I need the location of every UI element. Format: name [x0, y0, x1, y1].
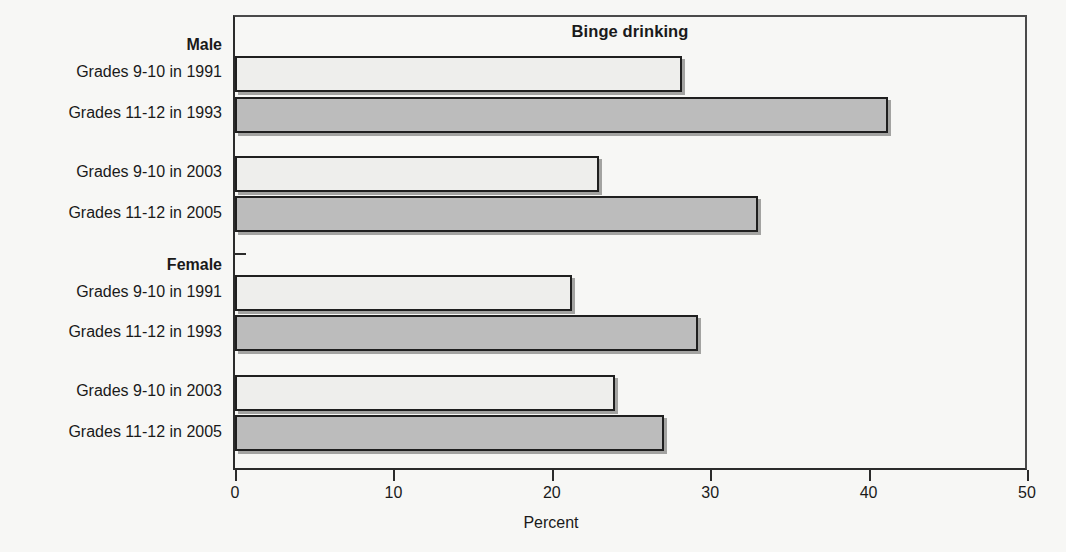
category-label-female-grades-9-10-1991: Grades 9-10 in 1991: [76, 283, 222, 301]
x-tick-label-50: 50: [997, 484, 1057, 502]
x-tick-label-20: 20: [522, 484, 582, 502]
x-axis-title: Percent: [0, 514, 1066, 532]
x-tick-label-0: 0: [205, 484, 265, 502]
x-tick-label-10: 10: [363, 484, 423, 502]
bar-female-grades-11-12-2005: [235, 415, 664, 451]
x-tick-0: [235, 470, 237, 481]
category-label-female-grades-11-12-1993: Grades 11-12 in 1993: [68, 323, 222, 341]
bar-male-grades-11-12-1993: [235, 97, 888, 133]
x-tick-10: [393, 470, 395, 481]
bar-female-grades-11-12-1993: [235, 315, 698, 351]
x-tick-30: [710, 470, 712, 481]
category-label-male-grades-9-10-2003: Grades 9-10 in 2003: [76, 163, 222, 181]
x-tick-label-40: 40: [839, 484, 899, 502]
bar-male-grades-9-10-2003: [235, 156, 599, 192]
bar-male-grades-11-12-2005: [235, 196, 758, 232]
category-label-female-grades-11-12-2005: Grades 11-12 in 2005: [68, 423, 222, 441]
bar-female-grades-9-10-2003: [235, 375, 615, 411]
category-label-female-grades-9-10-2003: Grades 9-10 in 2003: [76, 382, 222, 400]
group-header-female: Female: [167, 256, 222, 274]
group-separator-tick: [235, 253, 246, 255]
chart-page: Binge drinking Male Grades 9-10 in 1991 …: [0, 0, 1066, 552]
x-axis-title-text: Percent: [523, 514, 578, 532]
x-tick-50: [1027, 470, 1029, 481]
bar-female-grades-9-10-1991: [235, 275, 572, 311]
bar-male-grades-9-10-1991: [235, 56, 682, 92]
x-tick-label-30: 30: [680, 484, 740, 502]
category-label-male-grades-9-10-1991: Grades 9-10 in 1991: [76, 63, 222, 81]
category-label-male-grades-11-12-2005: Grades 11-12 in 2005: [68, 204, 222, 222]
chart-title: Binge drinking: [233, 22, 1027, 41]
x-tick-40: [869, 470, 871, 481]
category-label-male-grades-11-12-1993: Grades 11-12 in 1993: [68, 104, 222, 122]
group-header-male: Male: [186, 36, 222, 54]
x-tick-20: [552, 470, 554, 481]
